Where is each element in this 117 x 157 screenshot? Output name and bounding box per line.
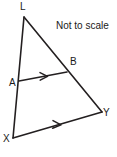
not-to-scale-note: Not to scale xyxy=(56,20,109,31)
vertex-label-Y: Y xyxy=(103,108,110,118)
segment-LY xyxy=(24,17,102,112)
vertex-label-B: B xyxy=(70,57,77,67)
segment-XY xyxy=(13,112,102,138)
geometry-figure: L A X B Y Not to scale xyxy=(0,0,117,157)
vertex-label-A: A xyxy=(9,78,16,88)
vertex-label-L: L xyxy=(20,2,26,12)
vertex-label-X: X xyxy=(3,134,10,144)
